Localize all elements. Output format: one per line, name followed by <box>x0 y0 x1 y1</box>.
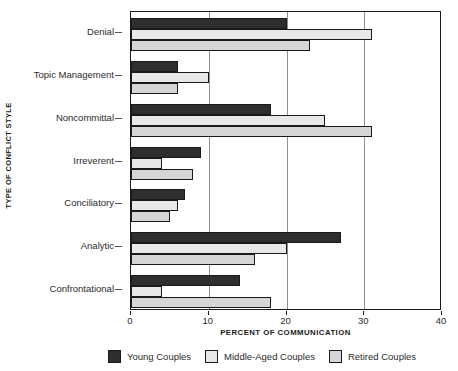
bar <box>131 29 372 40</box>
legend-item[interactable]: Young Couples <box>108 350 191 363</box>
bar <box>131 158 162 169</box>
bar <box>131 61 178 72</box>
x-axis-ticks: 010203040 <box>130 311 441 327</box>
bar <box>131 83 178 94</box>
y-axis-tick-label: Noncommittal <box>56 112 114 124</box>
x-axis-tick-label: 0 <box>127 315 132 326</box>
y-axis-tick-mark <box>115 75 122 76</box>
bar <box>131 200 178 211</box>
bar <box>131 211 170 222</box>
bar-chart-figure: TYPE OF CONFLICT STYLE DenialTopic Manag… <box>0 0 458 371</box>
bar-group <box>131 104 440 137</box>
bar <box>131 254 255 265</box>
y-axis-tick-label: Topic Management <box>34 69 114 81</box>
plot-area <box>130 11 441 310</box>
y-axis-tick-label: Irreverent <box>73 155 114 167</box>
bar <box>131 286 162 297</box>
legend-swatch-icon <box>205 350 218 363</box>
bar <box>131 115 325 126</box>
y-axis-tick-mark <box>115 161 122 162</box>
bar-group <box>131 18 440 51</box>
legend-item[interactable]: Retired Couples <box>329 350 416 363</box>
legend-label: Young Couples <box>127 351 191 362</box>
legend-swatch-icon <box>108 350 121 363</box>
legend-label: Middle-Aged Couples <box>224 351 315 362</box>
bar-group <box>131 275 440 308</box>
bar <box>131 147 201 158</box>
bar-group <box>131 147 440 180</box>
bar <box>131 104 271 115</box>
bar <box>131 243 287 254</box>
bar-group <box>131 232 440 265</box>
y-axis-tick-mark <box>115 118 122 119</box>
x-axis-tick-label: 20 <box>280 315 291 326</box>
y-axis-title-text: TYPE OF CONFLICT STYLE <box>4 102 13 208</box>
x-axis-title: PERCENT OF COMMUNICATION <box>130 328 441 337</box>
y-axis-tick-mark <box>115 203 122 204</box>
y-axis-tick-label: Confrontational <box>50 283 114 295</box>
y-axis-tick-mark <box>115 32 122 33</box>
x-axis-tick-label: 10 <box>202 315 213 326</box>
bar <box>131 275 240 286</box>
legend-item[interactable]: Middle-Aged Couples <box>205 350 315 363</box>
y-axis-category-labels: DenialTopic ManagementNoncommittalIrreve… <box>16 11 122 310</box>
bar <box>131 232 341 243</box>
y-axis-title: TYPE OF CONFLICT STYLE <box>0 0 16 310</box>
bar <box>131 126 372 137</box>
y-axis-tick-label: Denial <box>87 26 114 38</box>
x-axis-tick-label: 40 <box>436 315 447 326</box>
bar-group <box>131 189 440 222</box>
bar <box>131 189 185 200</box>
legend-label: Retired Couples <box>348 351 416 362</box>
x-axis-tick-label: 30 <box>358 315 369 326</box>
bar <box>131 18 287 29</box>
bar <box>131 297 271 308</box>
y-axis-tick-mark <box>115 289 122 290</box>
chart-legend: Young CouplesMiddle-Aged CouplesRetired … <box>108 346 453 366</box>
legend-swatch-icon <box>329 350 342 363</box>
bar-group <box>131 61 440 94</box>
y-axis-tick-label: Analytic <box>81 240 114 252</box>
bar <box>131 169 193 180</box>
bar <box>131 72 209 83</box>
y-axis-tick-mark <box>115 246 122 247</box>
bar <box>131 40 310 51</box>
y-axis-tick-label: Conciliatory <box>64 197 114 209</box>
